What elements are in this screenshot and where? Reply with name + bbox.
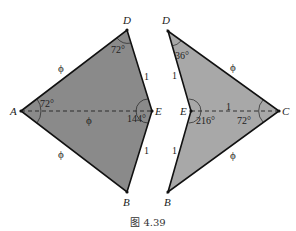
dart-side-de: 1 bbox=[172, 70, 177, 81]
kite-angle-a: 72° bbox=[40, 98, 54, 109]
vertex-label-b-dart: B bbox=[164, 196, 171, 208]
dart-side-dc: ϕ bbox=[230, 61, 236, 73]
dart-side-eb: 1 bbox=[172, 145, 177, 156]
kite-side-de: 1 bbox=[144, 71, 149, 82]
vertex-label-a: A bbox=[9, 105, 17, 117]
dart-side-bc: ϕ bbox=[230, 149, 236, 161]
dart-angle-e: 216° bbox=[196, 115, 215, 126]
kite-angle-e: 144° bbox=[127, 113, 146, 124]
kite-side-eb: 1 bbox=[144, 145, 149, 156]
kite-angle-d: 72° bbox=[111, 44, 125, 55]
vertex-label-d-dart: D bbox=[161, 14, 170, 26]
vertex-label-e-kite: E bbox=[154, 105, 162, 117]
vertex-label-b-kite: B bbox=[123, 196, 130, 208]
vertex-label-c: C bbox=[282, 105, 290, 117]
kite-side-ae: ϕ bbox=[86, 114, 92, 126]
vertex-label-d-kite: D bbox=[122, 14, 131, 26]
figure-caption: 图 4.39 bbox=[0, 214, 296, 229]
kite-dart-diagram: A D E B 72° 72° 144° ϕ ϕ ϕ 1 1 D E C B 3… bbox=[0, 0, 296, 231]
kite-side-ab: ϕ bbox=[58, 148, 64, 160]
dart-angle-d: 36° bbox=[175, 50, 189, 61]
vertex-label-e-dart: E bbox=[179, 105, 187, 117]
dart-side-ec: 1 bbox=[226, 101, 231, 112]
dart-angle-c: 72° bbox=[237, 115, 251, 126]
kite-side-ad: ϕ bbox=[58, 62, 64, 74]
